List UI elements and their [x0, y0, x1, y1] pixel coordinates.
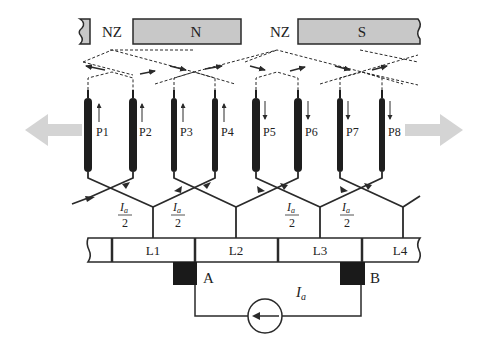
svg-text:Ia: Ia	[286, 200, 295, 215]
svg-text:P1: P1	[96, 125, 109, 139]
conductor-p5: P5	[252, 90, 276, 172]
conductor-p3: P3	[171, 90, 193, 172]
conductor-p4: P4	[212, 90, 234, 172]
current-source-icon	[248, 299, 282, 333]
brush-a: A	[173, 262, 214, 286]
motion-arrow-left-icon	[25, 114, 82, 146]
pole-strip: NZ N NZ S	[79, 19, 420, 44]
svg-text:P5: P5	[263, 125, 276, 139]
svg-text:P4: P4	[221, 125, 234, 139]
conductor-p2: P2	[129, 90, 152, 172]
source-label: Ia	[295, 284, 306, 302]
svg-text:Ia: Ia	[341, 200, 350, 215]
svg-text:A: A	[203, 270, 214, 286]
winding-diagram: NZ N NZ S	[0, 0, 483, 345]
pole-label-south: S	[358, 24, 366, 40]
conductor-p8: P8	[379, 90, 401, 172]
svg-text:2: 2	[289, 216, 295, 230]
svg-text:P6: P6	[305, 125, 318, 139]
svg-text:2: 2	[344, 216, 350, 230]
svg-text:2: 2	[122, 216, 128, 230]
svg-text:P8: P8	[388, 125, 401, 139]
svg-text:P2: P2	[139, 125, 152, 139]
current-label-2: Ia 2	[171, 200, 185, 230]
svg-text:P3: P3	[180, 125, 193, 139]
segment-l3: L3	[313, 243, 327, 258]
pole-north	[133, 19, 241, 44]
segment-l2: L2	[229, 243, 243, 258]
svg-text:2: 2	[175, 216, 181, 230]
bottom-connection-arrows	[85, 182, 372, 202]
conductor-p1: P1	[84, 90, 109, 172]
pole-label-nz-left: NZ	[102, 24, 122, 40]
pole-label-north: N	[191, 24, 202, 40]
current-label-4: Ia 2	[340, 200, 354, 230]
svg-text:Ia: Ia	[172, 200, 181, 215]
motion-arrow-right-icon	[405, 114, 463, 146]
current-label-3: Ia 2	[285, 200, 299, 230]
svg-text:Ia: Ia	[119, 200, 128, 215]
svg-text:P7: P7	[346, 125, 359, 139]
current-label-1: Ia 2	[118, 200, 132, 230]
brush-b: B	[340, 262, 380, 286]
conductor-p7: P7	[337, 90, 359, 172]
pole-fragment-left	[79, 19, 90, 44]
end-connection-arrows	[86, 66, 387, 74]
segment-l1: L1	[146, 243, 160, 258]
conductors: P1 P2 P3 P4 P5	[84, 90, 401, 172]
commutator: L1 L2 L3 L4	[87, 238, 420, 262]
svg-text:B: B	[370, 270, 380, 286]
segment-l4: L4	[393, 243, 408, 258]
conductor-p6: P6	[294, 90, 318, 172]
pole-label-nz-mid: NZ	[270, 24, 290, 40]
